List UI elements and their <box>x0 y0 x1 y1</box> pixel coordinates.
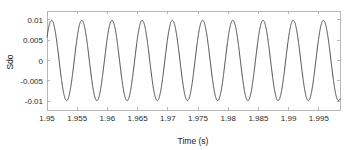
x-tick-label: 1.99 <box>281 114 297 123</box>
figure-container: 1.951.9551.961.9651.971.9751.981.9851.99… <box>0 0 354 150</box>
x-axis-title: Time (s) <box>178 136 209 146</box>
x-tick-label: 1.995 <box>309 114 330 123</box>
y-tick-label: -0.005 <box>20 77 43 86</box>
y-tick-label: 0.01 <box>27 16 43 25</box>
x-tick-label: 1.97 <box>160 114 176 123</box>
x-tick-label: 1.95 <box>39 114 55 123</box>
x-tick-label: 1.96 <box>100 114 116 123</box>
x-tick-label: 1.98 <box>220 114 236 123</box>
line-chart: 1.951.9551.961.9651.971.9751.981.9851.99… <box>0 0 354 150</box>
y-tick-label: -0.01 <box>25 97 44 106</box>
y-axis-title: Sdo <box>5 54 15 69</box>
x-tick-label: 1.985 <box>248 114 269 123</box>
x-tick-label: 1.965 <box>128 114 149 123</box>
y-tick-label: 0.005 <box>23 36 44 45</box>
x-tick-label: 1.975 <box>188 114 209 123</box>
y-tick-label: 0 <box>39 57 44 66</box>
x-tick-label: 1.955 <box>67 114 88 123</box>
